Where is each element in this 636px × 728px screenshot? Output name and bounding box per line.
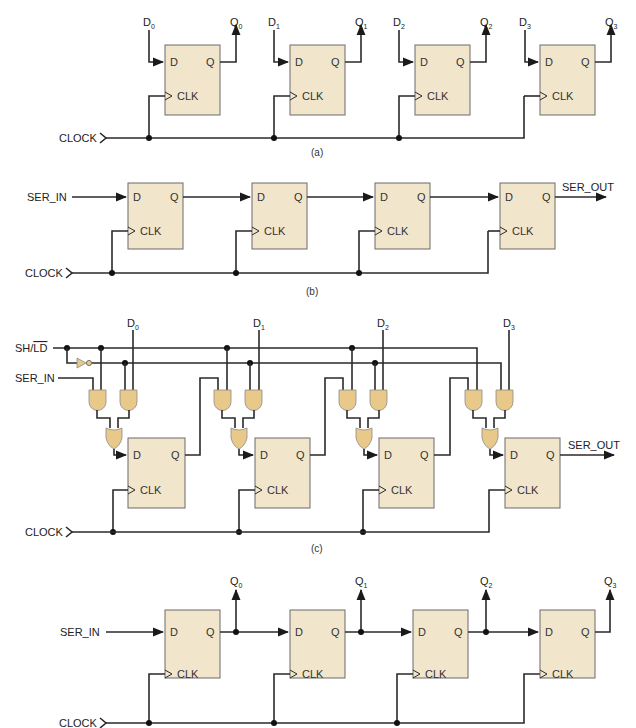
svg-text:CLK: CLK (264, 225, 286, 237)
clock-input-icon (100, 718, 106, 728)
svg-text:D: D (257, 191, 265, 203)
svg-text:D3: D3 (519, 16, 531, 30)
svg-text:D: D (380, 191, 388, 203)
flip-flop-a3: D Q CLK D3 Q3 (519, 16, 618, 115)
and-gate (120, 390, 137, 411)
svg-text:D: D (295, 56, 303, 68)
stage-c1: D Q CLK D1 (214, 317, 343, 535)
flip-flop-a1: D Q CLK D1 Q1 (268, 16, 368, 141)
svg-text:Q: Q (546, 449, 555, 461)
svg-text:CLK: CLK (427, 90, 449, 102)
svg-text:Q: Q (456, 56, 465, 68)
caption-b: (b) (306, 286, 318, 297)
shift-register-diagram: CLOCK D Q CLK D0 Q0 D Q CLK D1 (0, 0, 636, 728)
svg-text:Q: Q (206, 626, 215, 638)
svg-text:D1: D1 (268, 16, 280, 30)
svg-text:Q: Q (542, 191, 551, 203)
svg-text:CLK: CLK (302, 668, 324, 680)
clock-label: CLOCK (59, 717, 98, 728)
panel-c-universal-register: SH/LD SER_IN CLOCK D Q (15, 317, 620, 554)
and-gate (245, 390, 262, 411)
svg-text:CLK: CLK (512, 225, 534, 237)
svg-text:D: D (133, 191, 141, 203)
svg-text:D: D (545, 626, 553, 638)
or-gate (356, 428, 372, 449)
svg-text:CLK: CLK (552, 668, 574, 680)
ser-in-label: SER_IN (15, 372, 55, 384)
svg-text:Q: Q (171, 449, 180, 461)
svg-text:D0: D0 (127, 317, 139, 331)
svg-text:CLK: CLK (140, 225, 162, 237)
svg-text:Q: Q (417, 191, 426, 203)
flip-flop-d0: D Q CLK Q0 (146, 575, 288, 726)
svg-text:Q: Q (581, 626, 590, 638)
caption-c: (c) (311, 543, 323, 554)
flip-flop-d3: D Q CLK Q3 (540, 575, 617, 680)
svg-text:Q: Q (331, 626, 340, 638)
caption-a: (a) (311, 147, 323, 158)
clock-label: CLOCK (59, 132, 98, 144)
clock-input-icon (100, 133, 106, 143)
svg-text:D: D (260, 449, 268, 461)
svg-text:Q: Q (331, 56, 340, 68)
inverter-gate (77, 358, 86, 368)
svg-text:CLK: CLK (302, 90, 324, 102)
clock-input-icon (66, 268, 72, 278)
svg-text:D: D (133, 449, 141, 461)
panel-d-serial-parallel-register: SER_IN CLOCK D Q CLK Q0 D Q CLK (59, 575, 617, 728)
ser-in-label: SER_IN (60, 626, 100, 638)
or-gate (482, 428, 498, 449)
flip-flop-d1: D Q CLK Q1 (271, 575, 411, 726)
svg-text:Q1: Q1 (355, 575, 368, 589)
svg-text:D: D (295, 626, 303, 638)
svg-text:D: D (505, 191, 513, 203)
svg-text:Q: Q (581, 56, 590, 68)
svg-text:Q3: Q3 (605, 16, 618, 30)
svg-text:D: D (418, 626, 426, 638)
svg-text:D1: D1 (253, 317, 265, 331)
svg-text:CLK: CLK (391, 484, 413, 496)
svg-text:Q2: Q2 (480, 16, 493, 30)
svg-text:D: D (420, 56, 428, 68)
panel-b-serial-register: SER_IN CLOCK D Q CLK D Q CLK D (25, 181, 614, 297)
clock-label: CLOCK (25, 526, 64, 538)
flip-flop-b1: D Q CLK (233, 183, 373, 276)
svg-text:CLK: CLK (387, 225, 409, 237)
stage-c0: D Q CLK D0 (58, 317, 218, 535)
svg-text:D2: D2 (393, 16, 405, 30)
and-gate (89, 390, 106, 411)
svg-text:Q3: Q3 (604, 575, 617, 589)
shift-load-label: SH/LD (15, 342, 47, 354)
ser-out-label: SER_OUT (562, 181, 614, 193)
svg-text:Q: Q (206, 56, 215, 68)
clock-label: CLOCK (25, 267, 64, 279)
svg-text:Q: Q (454, 626, 463, 638)
svg-text:CLK: CLK (517, 484, 539, 496)
flip-flop-b2: D Q CLK (356, 183, 498, 276)
svg-text:CLK: CLK (425, 668, 447, 680)
svg-text:D: D (510, 449, 518, 461)
clock-input-icon (66, 527, 72, 537)
and-gate (214, 390, 231, 411)
or-gate (231, 428, 247, 449)
svg-text:CLK: CLK (552, 90, 574, 102)
panel-a-parallel-register: CLOCK D Q CLK D0 Q0 D Q CLK D1 (59, 16, 618, 158)
svg-text:Q: Q (296, 449, 305, 461)
svg-text:Q0: Q0 (230, 16, 243, 30)
svg-text:CLK: CLK (140, 484, 162, 496)
or-gate (106, 428, 122, 449)
ser-out-label: SER_OUT (568, 439, 620, 451)
and-gate (339, 390, 356, 411)
svg-text:D: D (384, 449, 392, 461)
svg-text:D: D (170, 56, 178, 68)
svg-text:D3: D3 (503, 317, 515, 331)
flip-flop-a0: D Q CLK D0 Q0 (143, 16, 243, 141)
and-gate (496, 390, 513, 411)
flip-flop-a2: D Q CLK D2 Q2 (393, 16, 493, 141)
svg-text:Q0: Q0 (230, 575, 243, 589)
svg-text:CLK: CLK (177, 668, 199, 680)
ser-in-label: SER_IN (27, 191, 67, 203)
flip-flop-b0: D Q CLK (109, 183, 250, 276)
svg-text:D: D (170, 626, 178, 638)
svg-text:D2: D2 (377, 317, 389, 331)
